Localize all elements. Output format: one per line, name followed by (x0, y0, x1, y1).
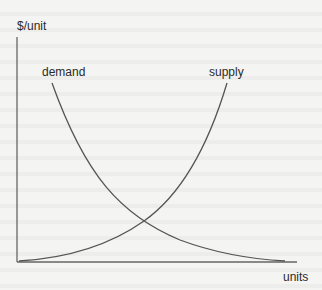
supply-curve (19, 83, 227, 261)
demand-label: demand (42, 65, 85, 79)
supply-label: supply (209, 65, 244, 79)
y-axis-label: $/unit (17, 19, 47, 33)
demand-curve (52, 83, 285, 261)
supply-demand-diagram: $/unit demand supply units (0, 0, 322, 290)
x-axis-label: units (283, 270, 308, 284)
